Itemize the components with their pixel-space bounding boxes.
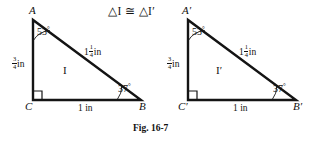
triangle-2-angle-b-prime: 37° [273,83,286,94]
unit-inch: in [172,59,179,69]
triangle-1-region-label: I [63,65,67,76]
degree-symbol-icon: ° [47,25,50,33]
triangle-1-angle-b: 37° [118,83,131,94]
triangle-2-vertex-a-prime-label: A′ [182,5,191,16]
triangle-2-angle-a-prime-value: 53 [192,26,202,37]
triangle-2-side-ac-prime-length: 3 4 in [167,56,179,70]
triangle-1-vertex-c-label: C [25,101,32,112]
figure-container: △I ≅ △I′ A C B 53° 37° 3 4 in 1 1 4 in 1… [0,0,319,142]
mixed-whole-part: 1 [239,47,244,57]
geometry-layer [0,0,319,142]
unit-inch: in [249,47,256,57]
triangle-1-right-angle-mark [33,91,42,100]
fraction-one-fourth: 1 4 [244,44,248,58]
unit-inch: in [94,47,101,57]
triangle-2-side-cb-prime-length: 1 in [233,104,248,114]
degree-symbol-icon: ° [202,25,205,33]
degree-symbol-icon: ° [283,82,286,90]
triangle-2-angle-a-prime: 53° [192,26,205,37]
fraction-three-fourths: 3 4 [12,56,16,70]
triangle-2-vertex-b-prime-label: B′ [293,101,302,112]
triangle-1-vertex-b-label: B [139,101,146,112]
triangle-2-side-ab-prime-length: 1 1 4 in [239,44,256,58]
triangle-1-side-cb-length: 1 in [78,104,93,114]
triangle-1-side-ab-length: 1 1 4 in [84,44,101,58]
triangle-2-angle-b-prime-value: 37 [273,83,283,94]
unit-inch: in [17,59,24,69]
figure-caption: Fig. 16-7 [133,124,168,134]
triangle-1-angle-a-value: 53 [37,26,47,37]
degree-symbol-icon: ° [128,82,131,90]
triangle-2-right-angle-mark [188,91,197,100]
triangle-2-vertex-c-prime-label: C′ [178,101,188,112]
triangle-1-angle-a: 53° [37,26,50,37]
congruence-statement: △I ≅ △I′ [108,6,155,18]
fraction-three-fourths: 3 4 [167,56,171,70]
fraction-one-fourth: 1 4 [89,44,93,58]
triangle-1-side-ac-length: 3 4 in [12,56,24,70]
triangle-1-angle-b-value: 37 [118,83,128,94]
mixed-whole-part: 1 [84,47,89,57]
triangle-1-vertex-a-label: A [29,5,36,16]
triangle-2-region-label: I′ [216,65,222,76]
